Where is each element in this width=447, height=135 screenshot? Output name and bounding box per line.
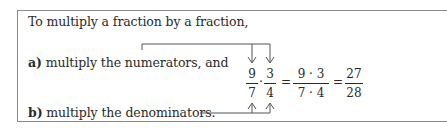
fraction-bar [246, 83, 258, 84]
equals-sign: = [333, 75, 343, 89]
fraction-product: 9 · 3 7 · 4 [293, 67, 329, 100]
fraction-bar [264, 83, 276, 84]
numerator: 9 · 3 [293, 67, 329, 81]
fraction-bar [293, 83, 329, 84]
equals-sign: = [281, 75, 291, 89]
fraction-result: 27 28 [345, 67, 363, 100]
denominator: 4 [264, 86, 276, 100]
numerator: 3 [264, 67, 276, 81]
fraction-left: 9 7 [246, 67, 258, 100]
denominator: 7 · 4 [293, 86, 329, 100]
denominator: 28 [345, 86, 363, 100]
fraction-right: 3 4 [264, 67, 276, 100]
denominator: 7 [246, 86, 258, 100]
numerator: 9 [246, 67, 258, 81]
fraction-bar [345, 83, 363, 84]
numerator: 27 [345, 67, 363, 81]
dot-operator: · [259, 75, 263, 89]
